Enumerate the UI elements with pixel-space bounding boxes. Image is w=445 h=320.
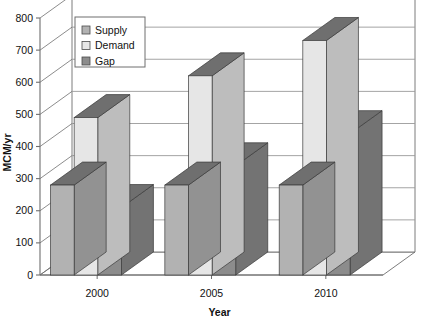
bar-supply-2010 [279, 162, 335, 275]
axis-depth-connector [40, 27, 72, 50]
y-tick-label: 600 [15, 76, 33, 88]
x-axis-title: Year [208, 306, 230, 318]
bar-front-face [165, 185, 189, 275]
bar-supply-2000 [51, 162, 107, 275]
bar-front-face [51, 185, 75, 275]
chart-container: 0100200300400500600700800MCM/yr200020052… [0, 0, 445, 320]
legend-swatch-supply-icon [82, 26, 90, 34]
x-tick-label: 2000 [85, 287, 109, 299]
x-tick-label: 2005 [200, 287, 224, 299]
bar-front-face [279, 185, 303, 275]
legend-label: Demand [95, 39, 135, 51]
y-axis-title: MCM/yr [1, 134, 13, 172]
y-tick-label: 100 [15, 236, 33, 248]
y-tick-label: 500 [15, 108, 33, 120]
axis-depth-connector [40, 59, 72, 82]
y-tick-label: 0 [27, 269, 33, 281]
axis-depth-connector [40, 91, 72, 114]
legend-label: Supply [95, 24, 128, 36]
axis-depth-connector [40, 0, 72, 18]
legend-swatch-demand-icon [82, 42, 90, 50]
y-tick-label: 700 [15, 44, 33, 56]
legend-swatch-gap-icon [82, 57, 90, 65]
y-tick-label: 300 [15, 172, 33, 184]
axis-depth-connector [40, 124, 72, 147]
legend: SupplyDemandGap [75, 17, 145, 67]
bar-supply-2005 [165, 162, 221, 275]
y-tick-label: 200 [15, 204, 33, 216]
x-tick-label: 2010 [314, 287, 338, 299]
bar-chart-3d: 0100200300400500600700800MCM/yr200020052… [0, 0, 445, 320]
legend-label: Gap [95, 55, 115, 67]
y-tick-label: 400 [15, 140, 33, 152]
y-tick-label: 800 [15, 12, 33, 24]
